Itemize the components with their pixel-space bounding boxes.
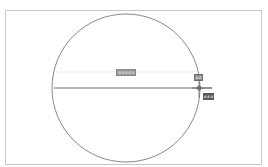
drawing-canvas[interactable]: [0, 0, 268, 167]
length-input-value: ######: [117, 70, 136, 75]
angle-input-value: ##: [195, 75, 202, 80]
length-input-field[interactable]: ######: [116, 69, 136, 76]
snap-tooltip-label: ###: [203, 94, 213, 99]
angle-input-tooltip[interactable]: ##: [194, 74, 203, 81]
snap-tooltip: ###: [203, 93, 214, 100]
